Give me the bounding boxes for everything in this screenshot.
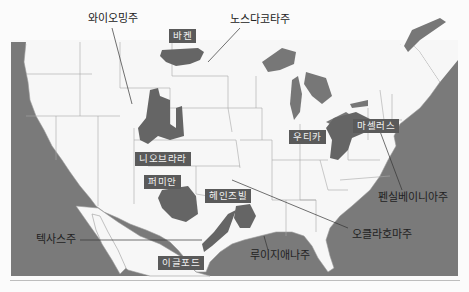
label-pennsylvania: 펜실베이니아주 [378, 192, 448, 203]
play-label-haynesville: 헤인즈빌 [205, 189, 251, 203]
play-label-bakken: 바켄 [169, 29, 196, 43]
play-label-niobrara: 니오브라라 [135, 152, 191, 166]
label-north-dakota: 노스다코타주 [230, 14, 290, 25]
label-texas: 텍사스주 [36, 234, 76, 245]
us-shale-map [0, 0, 469, 292]
canada-north [26, 40, 458, 44]
play-label-permian: 퍼미안 [144, 175, 181, 189]
play-label-utica: 우티카 [289, 130, 326, 144]
play-label-eagle-ford: 이글포드 [158, 256, 204, 270]
label-wyoming: 와이오밍주 [88, 13, 138, 24]
bottom-rule [10, 280, 460, 281]
label-louisiana: 루이지애나주 [250, 250, 310, 261]
label-oklahoma: 오클라호마주 [352, 229, 412, 240]
play-label-marcellus: 마셀러스 [353, 119, 399, 133]
